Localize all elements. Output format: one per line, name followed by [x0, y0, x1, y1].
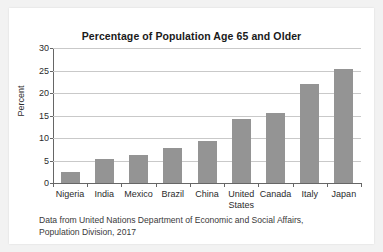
x-axis-tick-mark [190, 184, 191, 187]
x-axis-tick-mark [258, 184, 259, 187]
x-axis-tick-label: Nigeria [53, 189, 87, 200]
y-axis-tick-mark [50, 116, 53, 117]
y-axis-tick-label: 20 [27, 88, 49, 98]
bar [163, 148, 182, 183]
gridline [53, 48, 361, 49]
x-axis-tick-mark [87, 184, 88, 187]
bar [300, 84, 319, 183]
y-axis-tick-label: 10 [27, 133, 49, 143]
figure-card: Percentage of Population Age 65 and Olde… [9, 8, 374, 244]
y-axis-tick-label: 25 [27, 66, 49, 76]
bar [232, 119, 251, 183]
x-axis-tick-label: China [190, 189, 224, 200]
bar [95, 159, 114, 183]
y-axis-tick-mark [50, 138, 53, 139]
x-axis-line [53, 183, 362, 184]
y-axis-tick-label: 30 [27, 43, 49, 53]
bar [129, 155, 148, 183]
x-axis-tick-mark [156, 184, 157, 187]
x-axis-tick-mark [224, 184, 225, 187]
y-axis-tick-label: 5 [27, 156, 49, 166]
bar [266, 113, 285, 183]
bar [61, 172, 80, 183]
x-axis-tick-label: India [87, 189, 121, 200]
y-axis-tick-mark [50, 48, 53, 49]
x-axis-tick-label: United States [224, 189, 258, 211]
x-axis-tick-label: Japan [327, 189, 361, 200]
x-axis-tick-mark [361, 184, 362, 187]
x-axis-tick-mark [293, 184, 294, 187]
y-axis-tick-label: 15 [27, 111, 49, 121]
source-note: Data from United Nations Department of E… [39, 215, 339, 238]
chart-title: Percentage of Population Age 65 and Olde… [9, 30, 374, 42]
y-axis-tick-labels: 051015202530 [23, 48, 49, 183]
bar [334, 69, 353, 183]
bar [198, 141, 217, 183]
x-axis-tick-label: Italy [293, 189, 327, 200]
y-axis-tick-mark [50, 71, 53, 72]
y-axis-tick-mark [50, 161, 53, 162]
x-axis-tick-label: Canada [258, 189, 292, 200]
x-axis-tick-mark [53, 184, 54, 187]
gridline [53, 71, 361, 72]
y-axis-tick-label: 0 [27, 178, 49, 188]
x-axis-tick-label: Brazil [156, 189, 190, 200]
x-axis-tick-mark [121, 184, 122, 187]
x-axis-tick-mark [327, 184, 328, 187]
x-axis-tick-label: Mexico [121, 189, 155, 200]
plot-area [53, 48, 361, 183]
y-axis-tick-mark [50, 93, 53, 94]
